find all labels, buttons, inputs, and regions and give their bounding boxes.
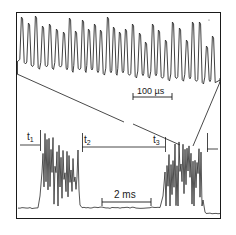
marker-label-t2: t2 [84,135,91,148]
marker-label-t3: t3 [153,135,160,148]
zoom-line-right [193,82,220,146]
marker-label-t1: t1 [27,132,34,145]
zoom-line-left [17,74,124,122]
scale-label-2ms: 2 ms [114,190,136,200]
scale-label-100us: 100 µs [137,86,164,96]
top-oscillation-trace [17,16,220,84]
speck [208,19,209,20]
interval-t3 [166,133,219,152]
